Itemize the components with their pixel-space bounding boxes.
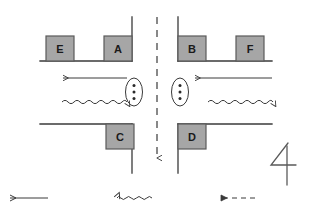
flow-arrows [62,78,273,104]
vehicle-F[interactable]: F [236,36,264,61]
figure-number-4 [271,143,296,185]
vehicle-C[interactable]: C [106,124,134,149]
intersection-diagram: E A B F C D [0,0,311,216]
vehicle-box [46,36,74,61]
right-wavy-arrow [208,100,273,103]
left-wavy-arrow [62,100,127,103]
diagram-canvas: E A B F C D [0,0,311,216]
figure-number-stroke-diagonal [271,143,296,165]
vehicle-E[interactable]: E [46,36,74,61]
legend-wavy-arrow [117,197,152,200]
pedestrian-ellipse-right [172,78,189,106]
vehicle-box [178,124,206,149]
vehicle-box [104,36,132,61]
vehicle-D[interactable]: D [178,124,206,149]
pedestrian-ellipse-left [126,78,143,106]
pedestrian-dot [133,84,136,87]
vehicle-box [236,36,264,61]
pedestrian-dot [179,84,182,87]
pedestrian-dot [179,97,182,100]
vehicle-box [106,124,134,149]
pedestrian-dot [179,91,182,94]
vehicle-box [178,36,206,61]
vehicle-A[interactable]: A [104,36,132,61]
pedestrian-dot [133,91,136,94]
vehicle-B[interactable]: B [178,36,206,61]
vehicles: E A B F C D [46,36,264,149]
legend [10,197,255,200]
pedestrian-dot [133,97,136,100]
